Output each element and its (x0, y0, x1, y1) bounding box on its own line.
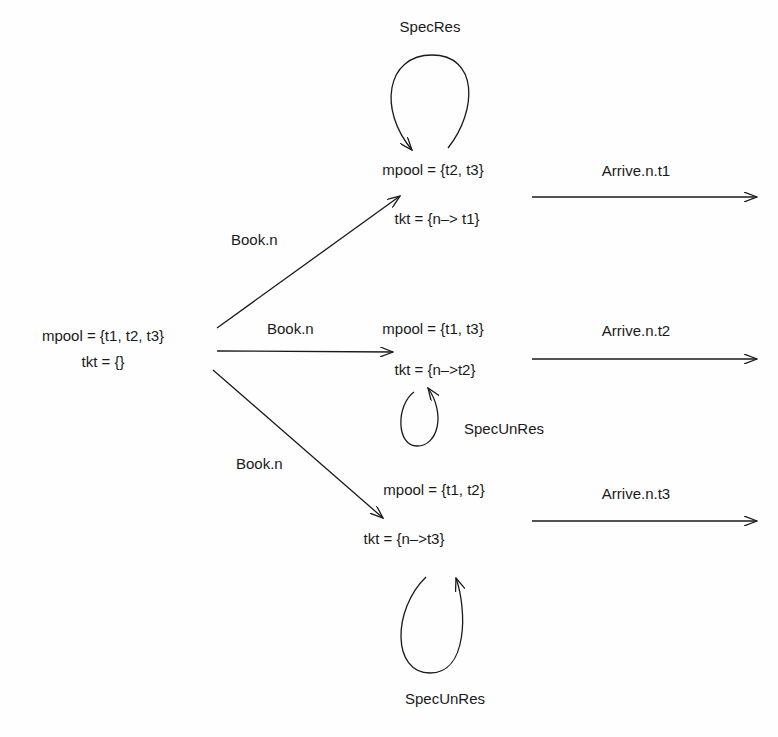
state-diagram: mpool = {t1, t2, t3} tkt = {} Book.n Boo… (0, 0, 778, 737)
loop-label-specunres-s2: SpecUnRes (464, 420, 544, 438)
loop-label-specunres-s3: SpecUnRes (405, 690, 485, 708)
s1-mpool: mpool = {t2, t3} (382, 161, 483, 179)
label-book-s2: Book.n (267, 320, 314, 338)
s2-mpool: mpool = {t1, t3} (382, 320, 483, 338)
label-arrive-t2: Arrive.n.t2 (602, 322, 670, 340)
label-book-s1: Book.n (231, 231, 278, 249)
s2-tkt: tkt = {n–>t2} (395, 361, 476, 379)
initial-tkt: tkt = {} (82, 353, 125, 371)
s3-mpool: mpool = {t1, t2} (383, 481, 484, 499)
label-book-s3: Book.n (236, 455, 283, 473)
initial-mpool: mpool = {t1, t2, t3} (42, 327, 164, 345)
loop-label-specres: SpecRes (400, 18, 461, 36)
label-arrive-t1: Arrive.n.t1 (602, 162, 670, 180)
s3-tkt: tkt = {n–>t3} (364, 530, 445, 548)
loop-specunres-s3 (401, 577, 463, 673)
loop-specres (391, 55, 469, 150)
edge-book-to-s1 (217, 196, 400, 328)
s1-tkt: tkt = {n–> t1} (394, 210, 479, 228)
edge-book-to-s3 (213, 370, 383, 518)
edge-book-to-s2 (217, 351, 393, 352)
label-arrive-t3: Arrive.n.t3 (602, 485, 670, 503)
loop-specunres-s2 (401, 388, 438, 446)
